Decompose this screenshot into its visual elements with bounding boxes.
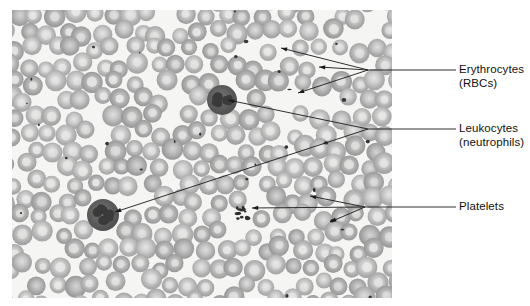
callout-label-leukocytes-line1: Leukocytes <box>459 122 518 134</box>
leader-branch-platelets-1 <box>252 207 365 208</box>
leader-arrowhead-platelets-1 <box>252 206 258 210</box>
callout-label-platelets: Platelets <box>459 200 504 214</box>
callout-label-erythrocytes-line1: Erythrocytes <box>459 63 524 75</box>
blood-smear-figure: Erythrocytes (RBCs) Leukocytes (neutroph… <box>0 0 530 306</box>
leader-branch-erythrocytes-2 <box>298 70 368 93</box>
leader-line-overlay <box>0 0 530 306</box>
leader-branch-platelets-0 <box>310 196 365 207</box>
leader-branch-leukocytes-0 <box>228 100 368 129</box>
leader-arrowhead-erythrocytes-0 <box>281 48 288 52</box>
leader-arrowhead-leukocytes-1 <box>115 208 122 212</box>
leader-arrowhead-erythrocytes-2 <box>298 89 305 93</box>
callout-label-erythrocytes-line2: (RBCs) <box>459 77 524 91</box>
callout-label-leukocytes-line2: (neutrophils) <box>459 136 524 150</box>
callout-label-platelets-line1: Platelets <box>459 200 504 212</box>
leader-arrowhead-platelets-2 <box>330 218 337 222</box>
callout-label-erythrocytes: Erythrocytes (RBCs) <box>459 63 524 90</box>
leader-branch-leukocytes-1 <box>115 129 368 212</box>
callout-label-leukocytes: Leukocytes (neutrophils) <box>459 122 524 149</box>
